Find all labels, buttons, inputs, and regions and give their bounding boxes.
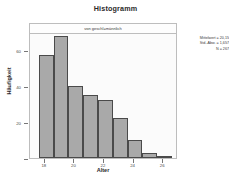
x-axis-tick [44,159,45,163]
y-axis-tick-label: 20 [0,121,21,126]
histogram-bar [113,118,128,158]
histogram-chart: Histogramm von geschl=männlich 204060182… [0,0,231,175]
x-axis-tick [103,159,104,163]
bars-container [30,34,176,158]
histogram-bar [54,36,69,158]
y-axis-title: Häufigkeit [6,51,12,111]
stat-n: N = 267 [183,47,229,52]
histogram-bar [98,100,113,158]
stat-stddev: Std.-Abw. = 1,657 [183,41,229,46]
panel-header-label: von geschl=männlich [30,26,176,31]
y-axis-tick [24,51,28,52]
histogram-bar [68,86,83,158]
histogram-bar [157,156,172,158]
y-axis-tick [24,87,28,88]
x-axis-tick [133,159,134,163]
x-axis-title: Alter [29,167,177,173]
histogram-bar [39,55,54,158]
x-axis-tick [162,159,163,163]
histogram-bar [83,95,98,158]
statistics-box: Mittelwert = 20,15 Std.-Abw. = 1,657 N =… [183,36,229,52]
y-axis-tick [24,159,28,160]
plot-area [29,33,177,159]
page-title: Histogramm [0,4,231,13]
y-axis-tick [24,123,28,124]
histogram-bar [128,140,143,158]
panel-header-strip: von geschl=männlich [29,23,177,33]
histogram-bar [142,153,157,158]
x-axis-tick [73,159,74,163]
